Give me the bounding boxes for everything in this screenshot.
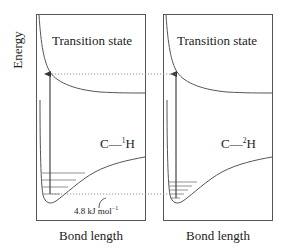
zero-point-energy-difference-label: 4.8 kJ mol−1 [74, 205, 118, 216]
transition-state-label: Transition state [52, 33, 132, 48]
kinetic-isotope-effect-diagram: Energy Transition state C—1H 4.8 kJ mol−… [0, 0, 289, 250]
transition-state-curve [39, 15, 145, 93]
bond-label-c-1h: C—1H [100, 136, 135, 151]
x-axis-label: Bond length [186, 228, 250, 243]
bond-label-c-2h: C—2H [221, 136, 256, 151]
transition-state-label: Transition state [177, 33, 257, 48]
potential-well-curve [40, 100, 145, 203]
x-axis-label: Bond length [59, 228, 123, 243]
panel-deuterium: Transition state C—2H Bond length [164, 15, 273, 244]
potential-well-curve [167, 100, 272, 203]
panel-protium: Transition state C—1H 4.8 kJ mol−1 Bond … [37, 15, 146, 244]
transition-state-curve [166, 15, 272, 93]
y-axis-label: Energy [10, 31, 25, 69]
